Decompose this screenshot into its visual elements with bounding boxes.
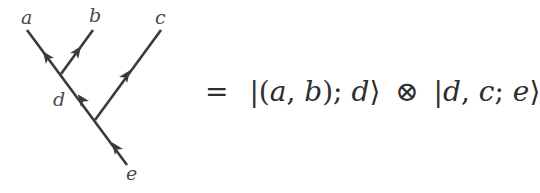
tensor-product-icon: ⊗	[395, 75, 418, 108]
equals-sign: =	[205, 75, 228, 108]
ket-2: |d, c; e⟩	[434, 75, 540, 108]
arrow-up-left-icon	[74, 91, 89, 107]
state-equation: = |(a, b); d⟩ ⊗ |d, c; e⟩	[205, 78, 540, 106]
label-c: c	[155, 8, 166, 27]
fusion-tree-diagram	[0, 0, 200, 193]
label-d: d	[53, 90, 65, 109]
label-b: b	[89, 6, 101, 25]
label-a: a	[21, 8, 32, 27]
ket-1: |(a, b); d⟩	[249, 75, 380, 108]
label-e: e	[126, 164, 137, 183]
